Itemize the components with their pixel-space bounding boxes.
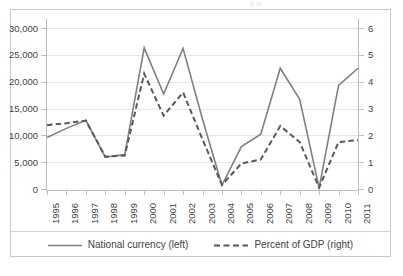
legend-line-dashed-icon (214, 241, 248, 250)
legend-label-percent-of-gdp: Percent of GDP (right) (254, 240, 353, 250)
legend-divider (11, 231, 390, 232)
legend-item-national-currency: National currency (left) (48, 240, 189, 250)
chart-figure: y p 30,00025,00020,00015,00010,0005,0000… (0, 0, 403, 276)
chart-legend: National currency (left) Percent of GDP … (11, 236, 390, 254)
series-line-percent-of-gdp (47, 74, 358, 188)
legend-line-solid-icon (48, 241, 82, 250)
legend-item-percent-of-gdp: Percent of GDP (right) (214, 240, 353, 250)
legend-label-national-currency: National currency (left) (88, 240, 189, 250)
series-plot (0, 0, 403, 276)
